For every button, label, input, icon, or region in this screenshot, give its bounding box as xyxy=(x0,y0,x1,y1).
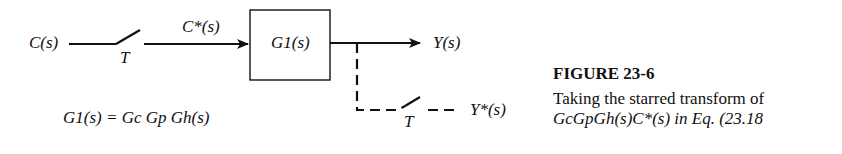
block-diagram xyxy=(0,0,842,154)
starred-input-label: C*(s) xyxy=(182,17,220,37)
equation: G1(s) = Gc Gp Gh(s) xyxy=(63,108,210,128)
figure-title: FIGURE 23-6 xyxy=(553,64,655,84)
sampler2-label: T xyxy=(404,112,413,132)
starred-output-label: Y*(s) xyxy=(470,100,506,120)
caption-line-2: GcGpGh(s)C*(s) in Eq. (23.18 xyxy=(553,109,763,129)
sampler2-switch xyxy=(405,97,420,106)
sampler1-switch xyxy=(116,30,140,44)
output-label: Y(s) xyxy=(433,33,460,53)
input-label: C(s) xyxy=(29,33,58,53)
block-label: G1(s) xyxy=(271,33,310,53)
caption-line-1: Taking the starred transform of xyxy=(553,89,764,109)
dashed-branch xyxy=(357,43,405,110)
sampler1-label: T xyxy=(120,48,129,68)
